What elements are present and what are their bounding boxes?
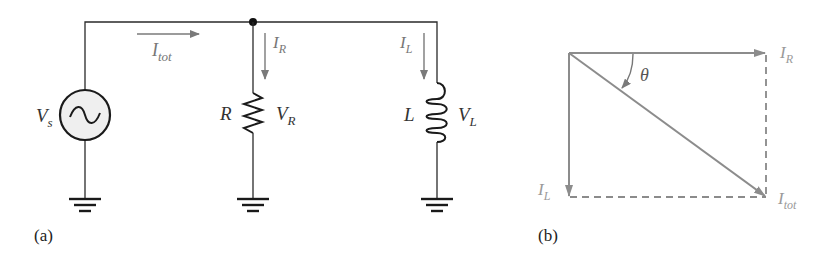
theta-arc-icon [622, 54, 633, 88]
ir-label: IR [272, 33, 287, 56]
vl-label: VL [458, 104, 477, 129]
top-wire [85, 22, 437, 90]
il-phasor-label: IL [537, 180, 551, 203]
vr-label: VR [276, 103, 296, 128]
parallel-rl-diagram: Vs Itot IR R VR IL L VL (a) θ IR IL Itot… [0, 0, 832, 259]
itot-phasor [569, 53, 765, 196]
il-label: IL [399, 33, 413, 56]
source-label: Vs [36, 105, 53, 130]
itot-label: Itot [151, 40, 172, 64]
theta-label: θ [640, 65, 649, 85]
caption-a: (a) [34, 226, 53, 245]
caption-b: (b) [538, 226, 558, 245]
inductor-label: L [403, 104, 415, 125]
ground-icon [237, 199, 269, 211]
figure-canvas: Vs Itot IR R VR IL L VL (a) θ IR IL Itot… [0, 0, 832, 259]
inductor-icon [427, 83, 447, 142]
resistor-icon [244, 93, 262, 133]
circuit-schematic: Vs Itot IR R VR IL L VL (a) [34, 18, 477, 245]
itot-phasor-label: Itot [777, 189, 797, 212]
ac-source-icon [60, 90, 110, 198]
phasor-diagram: θ IR IL Itot (b) [537, 43, 797, 245]
ground-icon [69, 199, 101, 211]
resistor-label: R [219, 103, 232, 124]
ir-phasor-label: IR [779, 43, 794, 66]
ground-icon [421, 199, 453, 211]
